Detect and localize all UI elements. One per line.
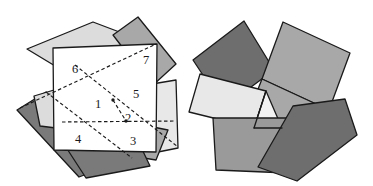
- vertex-dot-upper: [111, 98, 114, 101]
- white-square-outline: [53, 44, 157, 152]
- vertex-dot-center: [124, 119, 127, 122]
- figure-canvas: 1234567: [0, 0, 373, 186]
- dissection-figure-container: 1234567: [0, 0, 373, 186]
